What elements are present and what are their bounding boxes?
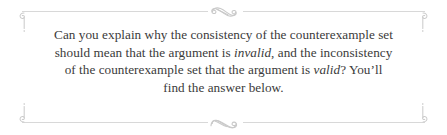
bottom-left-rule <box>22 122 208 123</box>
top-right-rule <box>243 11 425 12</box>
emphasized-word: valid <box>314 62 341 77</box>
text-segment: find the answer below. <box>163 80 283 95</box>
callout-text-line: should mean that the argument is invalid… <box>26 44 421 62</box>
text-segment: of the counterexample set that the argum… <box>65 62 314 77</box>
swirl-flourish-ornament-bottom <box>204 113 244 133</box>
callout-text-line: of the counterexample set that the argum… <box>26 61 421 79</box>
emphasized-word: invalid <box>234 45 271 60</box>
text-segment: should mean that the argument is <box>55 45 234 60</box>
bottom-right-rule <box>243 122 425 123</box>
text-segment: , and the inconsistency <box>271 45 392 60</box>
callout-text-line: Can you explain why the consistency of t… <box>26 26 421 44</box>
text-segment: ? You’ll <box>340 62 382 77</box>
top-left-rule <box>22 11 208 12</box>
callout-text: Can you explain why the consistency of t… <box>26 26 421 96</box>
swirl-flourish-ornament-top <box>204 2 244 22</box>
curl-ornament-bottom-left <box>14 101 36 127</box>
callout-text-line: find the answer below. <box>26 79 421 97</box>
decorative-callout-box: Can you explain why the consistency of t… <box>0 0 447 135</box>
curl-ornament-bottom-right <box>411 101 433 127</box>
text-segment: Can you explain why the consistency of t… <box>54 27 393 42</box>
